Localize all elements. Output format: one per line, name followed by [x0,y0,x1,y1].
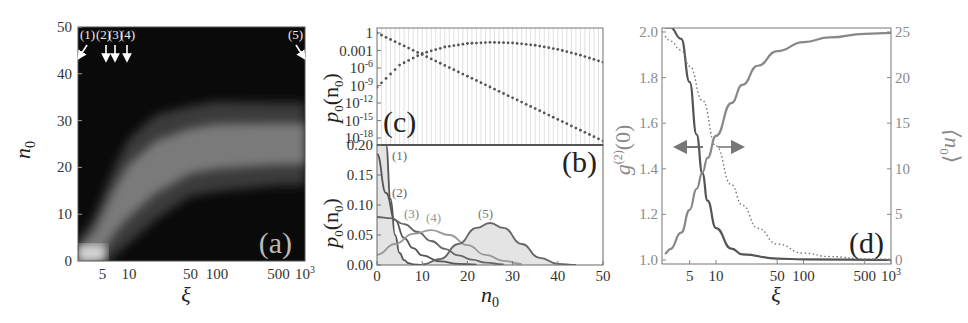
y-tick-label: 40 [57,66,72,82]
panel-d-left-y-label: g(2)(0) [610,125,635,176]
y-tick-label: 10-12 [345,93,373,111]
panel-b-y-ticks: 0.000.050.100.150.20 [347,137,381,273]
x-tick-label: 103 [295,264,315,282]
y-tick-label: 0.05 [347,227,373,243]
figure: 01020304050 51050100500103 n0 ξ (a) (1) … [0,0,968,323]
annotation-5-label: (5) [288,27,303,42]
x-tick-label: 5 [99,266,107,282]
x-tick-label: 0 [373,268,381,284]
x-tick-label: 10 [415,268,430,284]
panel-a-y-label: n0 [10,141,38,159]
x-tick-label: 5 [686,268,694,284]
y-tick-label: 0.00 [347,257,373,273]
x-tick-label: 50 [183,266,198,282]
y-tick-label: 0.10 [347,197,373,213]
y-tick-label: 0 [65,253,73,269]
panel-a: 01020304050 51050100500103 n0 ξ (a) (1) … [10,19,315,307]
curve-1-label: (1) [392,148,407,163]
y-tick-label: 1 [366,25,374,41]
panel-a-tag: (a) [259,226,292,260]
y-tick-label: 0.001 [339,43,373,59]
curve-4-label: (4) [426,210,441,225]
curve-3-label: (3) [404,206,419,221]
panel-d-right-y-label: ⟨n0⟩ [937,129,965,164]
y-tick-label: 30 [57,113,72,129]
y-tick-label: 5 [895,206,903,222]
panel-c-y-label: p0(n0) [318,73,346,125]
x-tick-label: 500 [853,268,876,284]
panel-a-x-label: ξ [181,282,191,307]
panel-a-x-ticks: 51050100500103 [99,264,315,282]
y-tick-label: 1.6 [639,115,658,131]
y-tick-label: 0.20 [347,137,373,153]
x-tick-label: 10 [709,268,724,284]
y-tick-label: 10 [895,161,910,177]
y-tick-label: 20 [895,70,910,86]
panel-b-y-label: p0(n0) [318,198,346,250]
x-tick-label: 40 [550,268,565,284]
y-tick-label: 20 [57,159,72,175]
x-tick-label: 100 [792,268,815,284]
curve-2-label: (2) [392,185,407,200]
x-tick-label: 20 [460,268,475,284]
x-tick-label: 103 [881,266,901,284]
x-tick-label: 100 [206,266,229,282]
y-tick-label: 10-15 [345,111,373,129]
y-tick-label: 25 [895,24,910,40]
panel-d-x-label: ξ [771,282,781,307]
panel-b-tag: (b) [562,145,597,179]
x-tick-label: 500 [267,266,290,282]
panel-d: 1.01.21.41.61.82.0 0510152025 5105010050… [610,24,965,307]
y-tick-label: 10 [57,206,72,222]
y-tick-label: 1.8 [639,70,658,86]
y-tick-label: 15 [895,115,910,131]
panel-c-tag: (c) [383,105,416,139]
x-tick-label: 10 [122,266,137,282]
y-tick-label: 1.4 [639,161,658,177]
panel-b-x-label: n0 [481,282,499,310]
y-tick-label: 1.0 [639,252,658,268]
y-tick-label: 2.0 [639,24,658,40]
annotation-1-label: (1) [80,27,95,42]
panel-c: 10.00110-610-910-1210-1510-18 (c) [339,25,604,146]
y-tick-label: 50 [57,19,72,35]
curve-5-label: (5) [478,206,493,221]
y-tick-label: 10-6 [350,58,373,76]
annotation-4-label: (4) [120,27,135,42]
panel-d-tag: (d) [849,226,884,260]
x-tick-label: 50 [596,268,611,284]
y-tick-label: 1.2 [639,206,658,222]
x-tick-label: 30 [505,268,520,284]
y-tick-label: 10-9 [350,76,373,94]
y-tick-label: 0.15 [347,167,373,183]
